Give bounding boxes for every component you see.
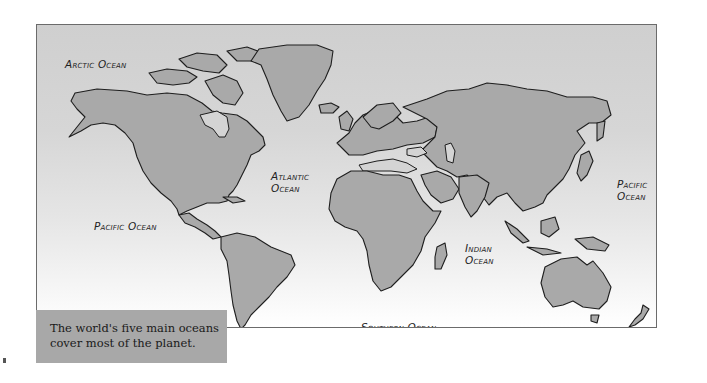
label-text: Southern Ocean — [361, 321, 436, 328]
label-text: Pacific Ocean — [94, 220, 157, 232]
label-text: Atlantic — [271, 170, 309, 182]
south-america — [221, 233, 295, 328]
caption-line-1: The world's five main oceans — [50, 321, 227, 336]
north-america — [69, 89, 265, 215]
madagascar — [435, 243, 447, 269]
india — [459, 175, 489, 217]
arctic-islands — [179, 53, 227, 73]
edge-mark — [3, 358, 6, 363]
arctic-islands — [205, 75, 243, 105]
tasmania — [591, 315, 599, 323]
caption-box: The world's five main oceans cover most … — [36, 310, 227, 363]
sakhalin — [597, 121, 605, 141]
japan — [577, 151, 593, 181]
caption-line-2: cover most of the planet. — [50, 336, 227, 351]
label-pacific-ocean-west: Pacific Ocean — [94, 220, 157, 232]
arabia — [421, 171, 459, 203]
label-indian-ocean: Indian Ocean — [465, 242, 494, 266]
borneo — [541, 217, 559, 237]
label-atlantic-ocean: Atlantic Ocean — [271, 170, 309, 194]
label-text: Ocean — [617, 190, 647, 202]
sumatra — [505, 221, 529, 243]
world-map: Arctic Ocean Atlantic Ocean Pacific Ocea… — [36, 24, 657, 328]
label-southern-ocean: Southern Ocean — [361, 321, 436, 328]
label-arctic-ocean: Arctic Ocean — [65, 58, 127, 70]
new-zealand — [629, 305, 649, 327]
british-isles — [339, 111, 353, 131]
africa — [329, 171, 441, 291]
label-text: Pacific — [617, 178, 647, 190]
label-text: Arctic Ocean — [65, 58, 127, 70]
iceland — [319, 103, 339, 113]
label-text: Ocean — [465, 254, 494, 266]
arctic-islands — [149, 69, 197, 85]
label-text: Indian — [465, 242, 494, 254]
java — [527, 247, 561, 255]
label-text: Ocean — [271, 182, 309, 194]
australia — [541, 257, 611, 309]
new-guinea — [575, 237, 609, 251]
central-america — [179, 213, 221, 239]
label-pacific-ocean-east: Pacific Ocean — [617, 178, 647, 202]
world-map-graphic — [37, 25, 657, 328]
